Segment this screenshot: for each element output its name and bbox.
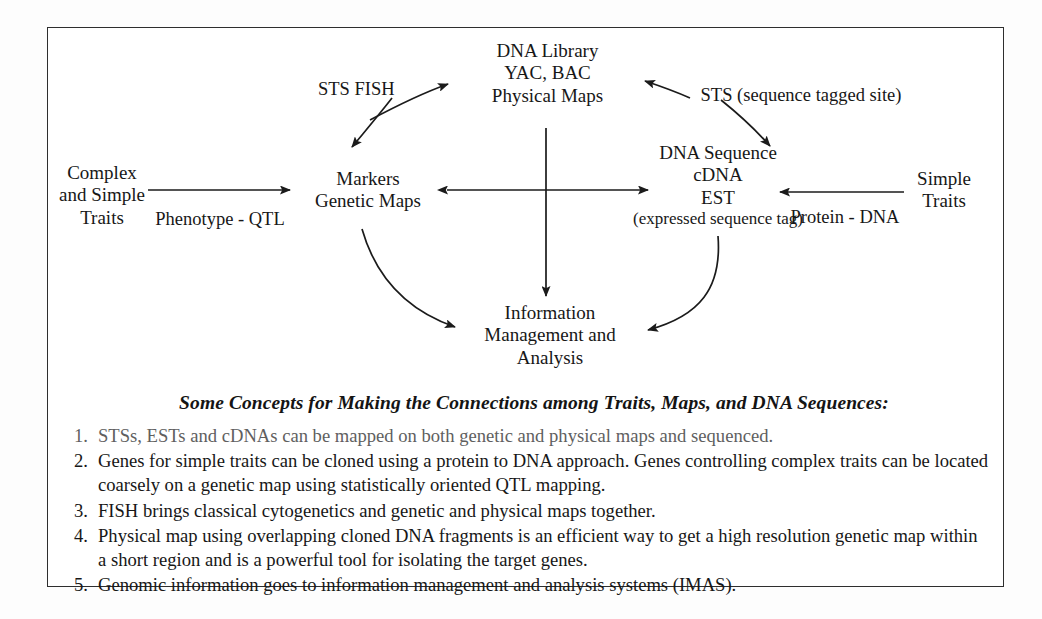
node-line: Information: [455, 302, 645, 324]
concept-text: STSs, ESTs and cDNAs can be mapped on bo…: [98, 425, 773, 446]
concept-number: 3.: [74, 499, 88, 523]
scanned-page: Complex and Simple Traits Markers Geneti…: [0, 0, 1042, 619]
node-line: DNA Library: [455, 40, 640, 62]
concept-item: 1. STSs, ESTs and cDNAs can be mapped on…: [74, 424, 990, 448]
concept-text: Physical map using overlapping cloned DN…: [98, 525, 978, 570]
node-complex-simple-traits: Complex and Simple Traits: [52, 162, 152, 229]
node-dna-library: DNA Library YAC, BAC Physical Maps: [455, 40, 640, 107]
concept-number: 5.: [74, 573, 88, 597]
node-simple-traits: Simple Traits: [898, 168, 990, 213]
node-line: EST: [612, 187, 824, 209]
concepts-list: 1. STSs, ESTs and cDNAs can be mapped on…: [60, 424, 990, 597]
node-line: Analysis: [455, 347, 645, 369]
node-information-management-analysis: Information Management and Analysis: [455, 302, 645, 369]
node-line: Management and: [455, 324, 645, 346]
node-line: YAC, BAC: [455, 62, 640, 84]
edge-label-line: FISH: [355, 79, 395, 99]
concepts-block: Some Concepts for Making the Connections…: [60, 392, 990, 598]
concept-item: 3. FISH brings classical cytogenetics an…: [74, 499, 990, 523]
edge-label-sts-sequence-tagged-site: STS (sequence tagged site): [676, 85, 926, 107]
edge-label-line: STS: [318, 79, 350, 99]
concept-number: 4.: [74, 524, 88, 548]
concepts-heading: Some Concepts for Making the Connections…: [60, 392, 990, 414]
concept-text: Genomic information goes to information …: [98, 574, 736, 595]
node-line: Markers: [290, 168, 446, 190]
edge-label-phenotype-qtl: Phenotype - QTL: [148, 209, 292, 231]
node-line: Genetic Maps: [290, 190, 446, 212]
node-line: and Simple: [52, 184, 152, 206]
concept-number: 2.: [74, 449, 88, 473]
node-line: Complex: [52, 162, 152, 184]
concept-item: 4. Physical map using overlapping cloned…: [74, 524, 990, 572]
concept-text: Genes for simple traits can be cloned us…: [98, 450, 988, 495]
concept-text: FISH brings classical cytogenetics and g…: [98, 500, 656, 521]
concept-item: 2. Genes for simple traits can be cloned…: [74, 449, 990, 497]
edge-label-sts-fish: STS FISH: [318, 79, 376, 101]
node-markers-genetic-maps: Markers Genetic Maps: [290, 168, 446, 213]
node-line: Physical Maps: [455, 85, 640, 107]
node-line: DNA Sequence: [612, 142, 824, 164]
edge-label-protein-dna: Protein - DNA: [782, 207, 908, 229]
node-line: Simple: [898, 168, 990, 190]
node-line: cDNA: [612, 164, 824, 186]
node-line: Traits: [898, 190, 990, 212]
node-line: Traits: [52, 207, 152, 229]
concept-number: 1.: [74, 424, 88, 448]
concept-item: 5. Genomic information goes to informati…: [74, 573, 990, 597]
